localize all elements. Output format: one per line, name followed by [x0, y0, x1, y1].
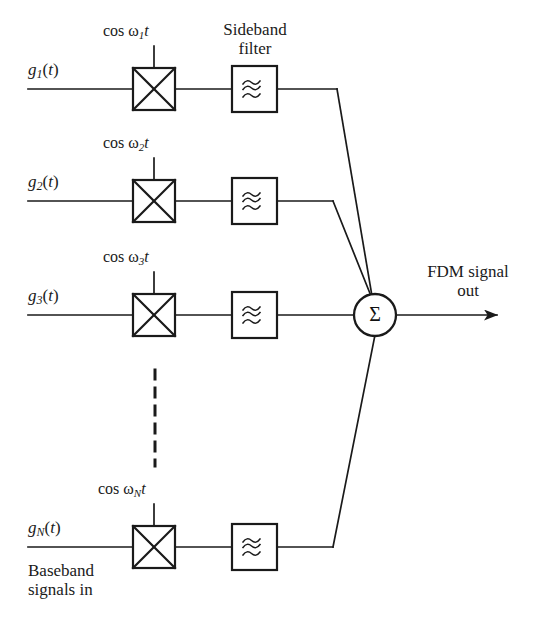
paren-close-2: )	[53, 172, 59, 191]
omega-symbol-2: ω	[128, 134, 139, 151]
fdm-out-line-2: out	[457, 281, 479, 300]
channel-1-carrier-label: cos ω1t	[103, 22, 149, 41]
cos-prefix-2: cos	[103, 134, 128, 151]
g-symbol-1: g	[28, 60, 37, 79]
channel-1-input-label: g1(t)	[28, 60, 59, 82]
channel-3-multiplier	[133, 294, 175, 336]
omega-symbol-1: ω	[128, 22, 139, 39]
t-variable-1: t	[144, 22, 148, 39]
channel-1-multiplier	[133, 68, 175, 110]
input-index-n: N	[37, 525, 45, 539]
channel-n-multiplier	[133, 526, 175, 568]
cos-prefix-1: cos	[103, 22, 128, 39]
channel-n-carrier-label: cos ωNt	[98, 480, 146, 499]
g-symbol-3: g	[28, 286, 37, 305]
channel-3-carrier-label: cos ω3t	[103, 248, 149, 267]
omega-symbol-3: ω	[128, 248, 139, 265]
channel-n-wiring	[28, 335, 375, 547]
fdm-block-diagram: Σ cos ω1t g1(t) Sidebandfilter cos ω2t g…	[0, 0, 540, 629]
diagram-canvas	[0, 0, 540, 629]
t-variable-2: t	[144, 134, 148, 151]
cos-prefix-n: cos	[98, 480, 123, 497]
sideband-filter-line-1: Sideband	[223, 20, 286, 39]
cos-prefix-3: cos	[103, 248, 128, 265]
sideband-filter-line-2: filter	[238, 39, 271, 58]
fdm-output-caption: FDM signalout	[406, 262, 530, 300]
channel-2-multiplier	[133, 180, 175, 222]
t-variable-n: t	[141, 480, 145, 497]
channel-2-carrier-label: cos ω2t	[103, 134, 149, 153]
channel-n-to-summer-diagonal	[333, 335, 375, 547]
baseband-line-2: signals in	[28, 580, 93, 599]
sideband-filter-caption: Sidebandfilter	[197, 20, 313, 58]
baseband-line-1: Baseband	[28, 561, 94, 580]
paren-close-1: )	[53, 60, 59, 79]
channel-1-to-summer-diagonal	[337, 89, 372, 296]
baseband-signals-caption: Basebandsignals in	[28, 561, 94, 599]
fdm-out-line-1: FDM signal	[427, 262, 509, 281]
g-symbol-2: g	[28, 172, 37, 191]
channel-n-input-label: gN(t)	[28, 518, 61, 540]
channel-1-wiring	[28, 46, 372, 296]
channel-2-input-label: g2(t)	[28, 172, 59, 194]
channel-3-wiring	[28, 272, 355, 315]
paren-close-n: )	[55, 518, 61, 537]
channel-2-to-summer-diagonal	[333, 201, 371, 296]
summation-sigma-icon: Σ	[360, 303, 390, 326]
t-variable-3: t	[144, 248, 148, 265]
channel-2-wiring	[28, 158, 371, 296]
omega-symbol-n: ω	[123, 480, 134, 497]
paren-close-3: )	[53, 286, 59, 305]
g-symbol-n: g	[28, 518, 37, 537]
channel-3-input-label: g3(t)	[28, 286, 59, 308]
